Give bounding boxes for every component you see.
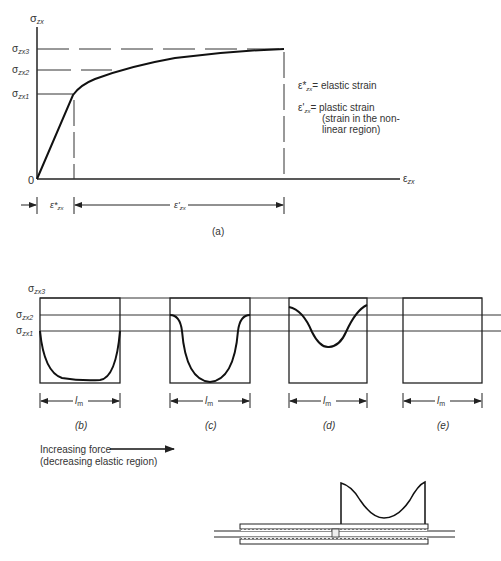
adhesive-layer (241, 537, 427, 539)
level-label-sigma-zx2: σzx2 (12, 64, 29, 76)
stress-curve-b (40, 331, 120, 380)
diagram-canvas: σzx εzx 0 σzx3 σzx2 σzx1 ε*zx= elastic s… (0, 0, 501, 561)
stress-curve-c (170, 315, 250, 382)
caption-b: (b) (75, 420, 87, 431)
dim-lm-c: lm (170, 393, 250, 408)
bottom-plate (240, 539, 428, 544)
adhesive-layer (241, 530, 331, 532)
legend-plastic-note-2: linear region) (322, 124, 380, 135)
note-line-2: (decreasing elastic region) (40, 456, 157, 467)
increasing-force-note: Increasing force (decreasing elastic reg… (40, 444, 174, 467)
caption-d: (d) (323, 420, 335, 431)
legend-elastic: ε*zx= elastic strain (298, 80, 377, 92)
dim-lm-d: lm (289, 393, 367, 408)
caption-c: (c) (205, 420, 217, 431)
adhesive-layer (339, 530, 427, 532)
y-axis-label: σzx (30, 12, 44, 25)
legend-plastic-note-1: (strain in the non- (322, 113, 400, 124)
lap-joint-illustration (214, 482, 455, 544)
gap-filler (332, 529, 339, 537)
caption-a: (a) (212, 226, 224, 237)
joint-stress-curve (341, 482, 425, 524)
panel-e-box (403, 298, 482, 383)
panel-d-box (289, 298, 367, 383)
dim-lm-e: lm (403, 393, 482, 408)
origin-label: 0 (28, 174, 34, 186)
stress-curve-d (289, 305, 367, 347)
dim-lm-b: lm (40, 393, 120, 408)
dim-label-plastic: ε'zx (174, 200, 187, 211)
level-label-sigma-zx3: σzx3 (12, 43, 29, 55)
caption-e: (e) (437, 420, 449, 431)
svg-text:lm: lm (75, 395, 83, 407)
note-line-1: Increasing force (40, 444, 112, 455)
level-label-sigma-zx3: σzx3 (28, 283, 45, 295)
level-label-sigma-zx2: σzx2 (16, 309, 33, 321)
dim-label-elastic: ε*zx (50, 200, 64, 211)
level-label-sigma-zx1: σzx1 (16, 325, 33, 337)
svg-text:lm: lm (205, 395, 213, 407)
panel-c-box (170, 298, 250, 383)
svg-text:lm: lm (323, 395, 331, 407)
top-plate (240, 524, 428, 529)
level-label-sigma-zx1: σzx1 (12, 88, 29, 100)
x-axis-label: εzx (403, 173, 415, 185)
stress-distribution-panels: σzx3 σzx2 σzx1 lm lm (16, 283, 501, 431)
stress-strain-chart: σzx εzx 0 σzx3 σzx2 σzx1 ε*zx= elastic s… (12, 12, 415, 237)
svg-text:lm: lm (437, 395, 445, 407)
